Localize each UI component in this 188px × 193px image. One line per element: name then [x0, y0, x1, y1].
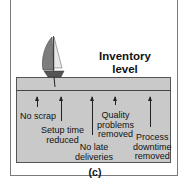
label-no-scrap: No scrap: [20, 112, 56, 122]
sailboat-icon: [38, 34, 70, 88]
arrow-no-late-icon: [92, 97, 93, 135]
arrow-downtime-icon: [150, 97, 151, 127]
arrow-setup-time-icon: [61, 97, 62, 121]
label-quality-problems: Quality problems removed: [97, 111, 134, 140]
label-no-late-deliveries: No late deliveries: [75, 143, 113, 162]
arrow-no-scrap-icon: [37, 97, 38, 107]
arrow-quality-icon: [115, 97, 116, 105]
inventory-level-line: [16, 90, 171, 91]
figure-caption: (c): [80, 166, 110, 178]
inventory-level-title: Inventory level: [92, 50, 158, 76]
label-process-downtime: Process downtime removed: [133, 133, 172, 162]
